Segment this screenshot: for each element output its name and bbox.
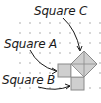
square-a — [58, 64, 71, 77]
label-square-c: Square C — [34, 5, 87, 17]
pythagorean-diagram: Square C Square A Square B — [0, 0, 101, 103]
label-square-a: Square A — [4, 38, 57, 50]
arrow-square-a — [30, 50, 57, 74]
square-b — [71, 77, 84, 90]
label-square-b: Square B — [2, 74, 55, 86]
